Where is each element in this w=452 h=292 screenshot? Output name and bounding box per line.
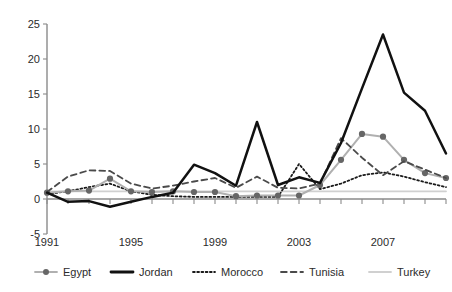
series-marker-egypt [233,193,239,199]
x-axis-tick-label: 1995 [119,236,143,248]
x-axis-tick-label: 2003 [287,236,311,248]
legend-label-turkey: Turkey [397,266,431,278]
series-marker-egypt [107,176,113,182]
x-axis-tick-label: 1991 [35,236,59,248]
series-line-egypt [47,134,446,196]
x-axis-tick-label: 2007 [371,236,395,248]
y-axis-tick-label: 5 [34,158,40,170]
legend-label-morocco: Morocco [221,266,263,278]
legend-marker-egypt [43,269,49,275]
y-axis-tick-label: 15 [28,88,40,100]
series-marker-egypt [296,192,302,198]
y-axis-tick-label: 10 [28,123,40,135]
series-marker-egypt [149,189,155,195]
legend-label-egypt: Egypt [63,266,91,278]
series-marker-egypt [359,131,365,137]
series-marker-egypt [191,189,197,195]
y-axis-tick-label: 25 [28,18,40,30]
y-axis-tick-label: 20 [28,53,40,65]
series-marker-egypt [380,134,386,140]
chart-container: -5051015202519911995199920032007EgyptJor… [0,0,452,292]
y-axis-tick-label: 0 [34,193,40,205]
legend-label-jordan: Jordan [139,266,173,278]
series-marker-egypt [254,192,260,198]
series-marker-egypt [338,157,344,163]
series-marker-egypt [65,188,71,194]
series-marker-egypt [212,189,218,195]
series-marker-egypt [275,192,281,198]
series-marker-egypt [86,188,92,194]
legend-label-tunisia: Tunisia [309,266,345,278]
x-axis-tick-label: 1999 [203,236,227,248]
line-chart: -5051015202519911995199920032007EgyptJor… [0,0,452,292]
series-marker-egypt [128,188,134,194]
